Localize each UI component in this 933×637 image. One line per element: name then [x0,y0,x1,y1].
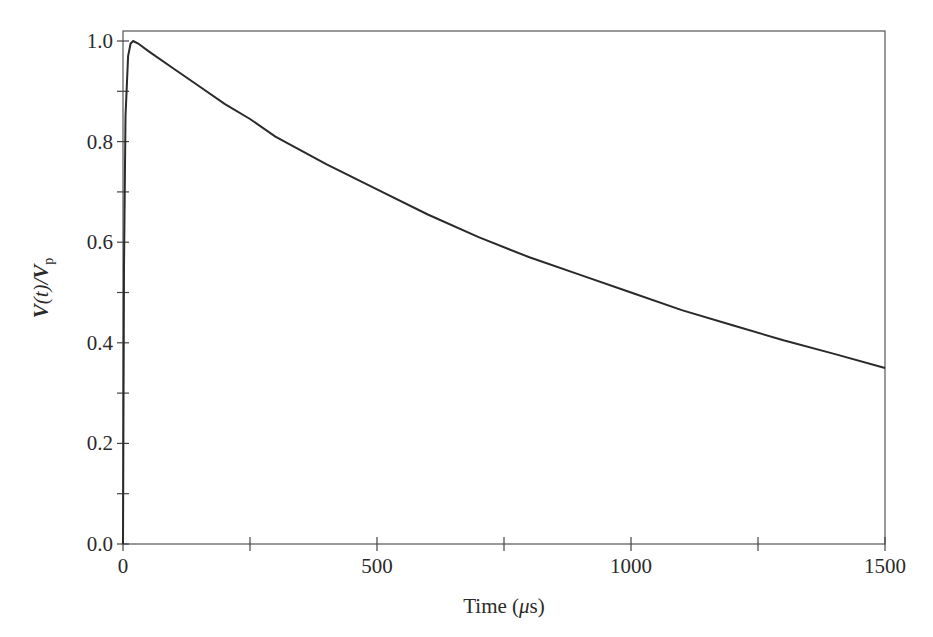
y-tick-label: 0.2 [87,431,113,455]
x-tick-label: 1000 [610,554,652,578]
x-tick-label: 0 [118,554,129,578]
x-tick-label: 1500 [864,554,906,578]
x-tick-label: 500 [361,554,393,578]
x-axis-title: Time (μs) [463,594,545,618]
plot-frame [123,31,885,544]
y-tick-label: 0.4 [87,331,114,355]
data-line [123,41,885,544]
chart: 050010001500 0.00.20.40.60.81.0 Time (μs… [0,0,933,637]
y-tick-label: 0.6 [87,230,113,254]
y-tick-label: 0.0 [87,532,113,556]
y-tick-label: 0.8 [87,130,113,154]
y-axis-title: V(t)/Vp [29,258,56,319]
x-axis-ticks: 050010001500 [118,537,906,578]
y-tick-label: 1.0 [87,29,113,53]
